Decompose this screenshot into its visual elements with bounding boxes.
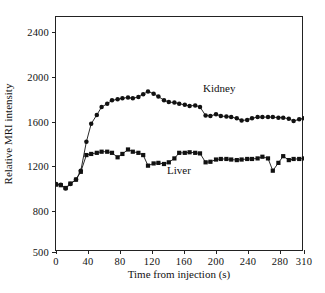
x-axis-tick-label: 40 [83,256,94,267]
data-point-liver [156,161,160,165]
data-point-liver [302,156,304,160]
data-point-liver [297,157,301,161]
data-point-liver [116,155,120,159]
data-point-kidney [224,114,229,119]
data-point-kidney [250,116,255,121]
data-point-liver [68,181,72,185]
x-axis-tick [88,250,89,254]
data-point-kidney [208,114,213,119]
data-point-liver [250,157,254,161]
data-point-kidney [167,100,172,105]
data-point-kidney [172,100,177,105]
data-point-kidney [151,91,156,96]
data-point-kidney [302,116,304,121]
data-point-liver [188,150,192,154]
series-label-liver: Liver [167,164,191,176]
data-point-liver [56,183,58,187]
data-point-liver [131,150,135,154]
data-point-kidney [146,89,151,94]
data-point-kidney [120,96,125,101]
x-axis-tick-label: 160 [176,256,192,267]
data-point-kidney [245,118,250,123]
data-point-liver [256,156,260,160]
data-point-kidney [255,115,260,120]
x-axis-tick [304,250,305,254]
data-point-kidney [291,119,296,124]
y-axis-tick [52,77,56,78]
data-point-liver [126,147,130,151]
data-point-liver [120,152,124,156]
y-axis-tick [52,122,56,123]
data-point-kidney [266,115,271,120]
data-point-kidney [203,113,208,118]
data-point-kidney [281,115,286,120]
data-point-liver [240,157,244,161]
y-axis-tick-label: 1600 [27,116,49,127]
data-point-kidney [183,103,188,108]
x-axis-tick [184,250,185,254]
y-axis-label: Relative MRI intensity [0,16,16,251]
x-axis-tick-label: 0 [53,256,58,267]
data-point-liver [100,150,104,154]
data-point-liver [287,158,291,162]
x-axis-label: Time from injection (s) [55,268,303,280]
data-point-liver [229,157,233,161]
data-point-kidney [131,96,136,101]
data-point-liver [136,151,140,155]
data-point-kidney [239,118,244,123]
chart-figure: Relative MRI intensity 50080012001600200… [0,0,325,293]
y-axis-tick-label: 2400 [27,27,49,38]
data-point-liver [79,170,83,174]
x-axis-tick-label: 310 [296,256,312,267]
data-point-liver [141,153,145,157]
x-axis-tick [248,250,249,254]
x-axis-tick-label: 200 [208,256,224,267]
x-axis-tick-label: 280 [272,256,288,267]
data-point-liver [105,150,109,154]
data-point-liver [74,178,78,182]
data-point-liver [281,154,285,158]
data-point-liver [146,164,150,168]
data-point-liver [193,151,197,155]
series-label-kidney: Kidney [203,82,235,94]
data-point-kidney [229,115,234,120]
y-axis-tick-label: 1200 [27,161,49,172]
data-point-liver [89,152,93,156]
data-point-kidney [271,115,276,120]
data-point-kidney [115,97,120,102]
data-point-liver [64,186,68,190]
data-point-kidney [126,95,131,100]
data-point-liver [235,158,239,162]
data-point-liver [266,156,270,160]
data-point-kidney [235,116,240,121]
data-point-kidney [95,113,100,118]
data-point-kidney [105,101,110,106]
data-point-liver [204,160,208,164]
data-point-liver [198,151,202,155]
y-axis-tick-label: 500 [33,247,49,258]
data-point-liver [95,151,99,155]
series-canvas [56,17,304,252]
data-point-liver [172,156,176,160]
x-axis-tick [216,250,217,254]
data-point-liver [260,155,264,159]
data-point-kidney [297,117,302,122]
data-point-liver [276,161,280,165]
data-point-kidney [260,115,265,120]
data-point-kidney [287,117,292,122]
y-axis-tick-label: 2000 [27,71,49,82]
data-point-liver [84,153,88,157]
data-point-liver [245,157,249,161]
y-axis-tick-label: 800 [33,205,49,216]
data-point-kidney [214,112,219,117]
data-point-kidney [156,94,161,99]
data-point-kidney [198,105,203,110]
data-point-liver [183,151,187,155]
data-point-liver [214,157,218,161]
data-point-liver [271,169,275,173]
data-point-liver [110,151,114,155]
y-axis-label-text: Relative MRI intensity [2,83,14,184]
x-axis-tick [280,250,281,254]
data-point-kidney [219,114,224,119]
x-axis-tick [152,250,153,254]
